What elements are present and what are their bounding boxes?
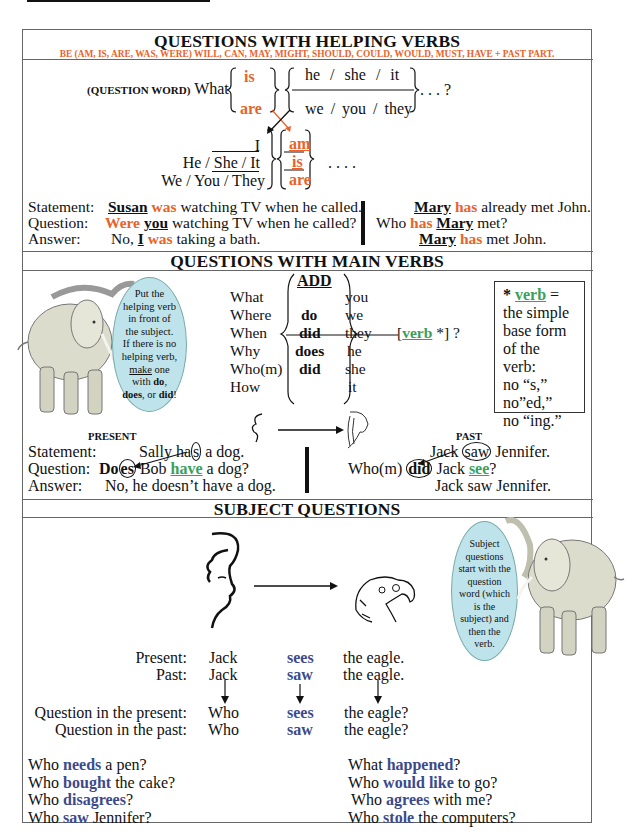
subject-mary: Mary [419, 230, 456, 247]
speech-bubble-helping-verb: Put the helping verb in front of the sub… [112, 277, 187, 412]
text: Jennifer? [89, 809, 152, 826]
text: a dog? [203, 460, 249, 477]
statement-left: Susan was watching TV when he called. [108, 198, 362, 215]
bubble-line: If there is no [113, 338, 186, 351]
pronoun: she [345, 360, 372, 378]
statement-rest: already met John. [477, 198, 591, 215]
text: ? [453, 756, 460, 773]
text: ? [489, 460, 496, 477]
question-right: Who has Mary met? [376, 214, 507, 231]
bubble-line: helping verb, [113, 351, 186, 364]
verb: disagrees [63, 791, 126, 808]
verb-are-bottom: are [289, 171, 311, 188]
text: Who [351, 791, 386, 808]
pronoun: they [345, 324, 372, 342]
statement-rest: watching TV when he called. [177, 198, 362, 215]
equals: = [546, 286, 559, 303]
verb-slot: [verb *] ? [397, 324, 460, 341]
right-examples: What happened? Who would like to go? Who… [348, 756, 516, 826]
exclaim: ! [173, 389, 177, 400]
bubble-line: the subject. [113, 326, 186, 339]
subject-who: Who [208, 704, 239, 721]
bubble-line: does, or did! [113, 389, 186, 402]
note-line: no “s,” [503, 376, 576, 394]
one-word: one [152, 364, 170, 375]
question-word-text: (QUESTION WORD) [87, 84, 190, 96]
note-title: * verb = [503, 286, 576, 304]
ellipsis-question: . . . ? [420, 81, 451, 98]
answer-left: No, I was taking a bath. [111, 230, 260, 247]
qword: When [230, 324, 283, 342]
example-item: What happened? [348, 756, 516, 774]
question-rest: met? [473, 214, 507, 231]
text: What [348, 756, 387, 773]
what-word: What [194, 80, 229, 97]
asterisk: * [503, 286, 515, 303]
aux-did: did [299, 324, 321, 341]
example-item: Who disagrees? [28, 791, 175, 809]
example-item: Who saw Jennifer? [28, 809, 175, 827]
do-word: do [153, 376, 164, 387]
label-answer: Answer: [28, 477, 82, 494]
note-line: no “ing.” [503, 412, 576, 430]
subject-i: I [138, 230, 144, 247]
verb-see: see [469, 460, 489, 477]
verb-word: verb [515, 286, 546, 303]
example-item: Who would like to go? [348, 774, 516, 792]
subject-he-she-it: He / She / It [130, 154, 260, 171]
text: to go? [454, 774, 498, 791]
verb-has: has [460, 230, 482, 247]
note-line: of the verb: [503, 340, 576, 376]
divider [22, 270, 593, 271]
label-question-past: Question in the past: [30, 721, 187, 738]
speaker-listener-icon [250, 410, 370, 450]
text: the computers? [414, 809, 515, 826]
aux-do: do [301, 306, 317, 323]
text: Who [348, 809, 383, 826]
qword: Why [230, 342, 283, 360]
arrow-right-icon [254, 580, 344, 592]
text: Who [348, 774, 383, 791]
object-eagle: the eagle. [343, 649, 404, 666]
answer-no: No, [111, 230, 138, 247]
note-line: the simple [503, 304, 576, 322]
subject-you: you [144, 214, 168, 231]
object-eagle-q: the eagle? [344, 704, 408, 721]
column-divider [305, 447, 309, 493]
with-word: with [132, 376, 153, 387]
question-left: Were you watching TV when he called? [105, 214, 356, 231]
question-rest: watching TV when he called? [168, 214, 356, 231]
move-did-arrow-icon [400, 449, 460, 469]
top-rule [27, 0, 210, 2]
verb-is-bottom: is [292, 153, 303, 170]
subject-we-you-they: We / You / They [130, 172, 265, 189]
verb: stole [383, 809, 414, 826]
text: Who [28, 809, 63, 826]
move-s-arrow-icon [125, 448, 195, 473]
aux-does: does [295, 342, 324, 359]
bubble-line: in front of [113, 313, 186, 326]
answer-rest: taking a bath. [173, 230, 261, 247]
example-item: Who stole the computers? [348, 809, 516, 827]
bubble-line: helping verb [113, 301, 186, 314]
column-divider [361, 201, 365, 245]
section2-title: QUESTIONS WITH MAIN VERBS [22, 251, 592, 272]
label-question-present: Question in the present: [30, 704, 187, 721]
does-word: does [122, 389, 142, 400]
pronoun: you [345, 288, 372, 306]
example-item: Who bought the cake? [28, 774, 175, 792]
bubble-line: Put the [113, 288, 186, 301]
question-word-label: (QUESTION WORD) What [87, 80, 229, 99]
verb: needs [63, 756, 101, 773]
verb-definition-note: * verb = the simple base form of the ver… [494, 281, 585, 413]
answer-rest: met John. [482, 230, 546, 247]
eagle-head-icon [352, 570, 422, 625]
verb-were: Were [105, 214, 140, 231]
text: a pen? [101, 756, 146, 773]
verb: bought [63, 774, 111, 791]
or-word: , or [142, 389, 159, 400]
label-statement: Statement: [28, 443, 96, 460]
label-question: Question: [28, 214, 88, 231]
section1-subtitle: BE (AM, IS, ARE, WAS, WERE) WILL, CAN, M… [22, 49, 592, 59]
text: Who [28, 774, 63, 791]
